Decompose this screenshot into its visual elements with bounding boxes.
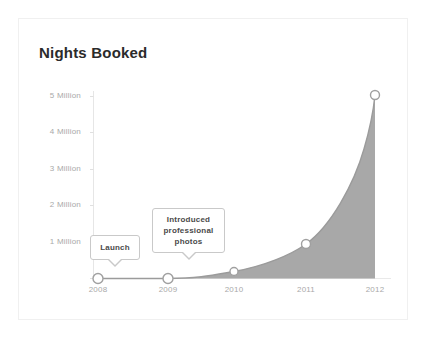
x-tick-label-2008: 2008 [73,285,123,294]
x-tick-label-2012: 2012 [350,285,400,294]
annotation-launch[interactable]: Launch [90,235,140,260]
y-tick-label-3m: 3 Million [27,164,81,173]
y-tick-label-2m: 2 Million [27,200,81,209]
data-point-2009 [163,274,173,284]
annotation-photos-line1: Introduced [167,214,210,225]
data-point-2010 [230,268,238,276]
annotation-launch-label: Launch [100,242,130,253]
data-point-2012 [371,91,380,100]
annotation-professional-photos[interactable]: Introduced professional photos [152,208,225,253]
x-tick-label-2010: 2010 [209,285,259,294]
y-tick-label-5m: 5 Million [27,91,81,100]
y-tick-label-4m: 4 Million [27,127,81,136]
x-tick-label-2009: 2009 [143,285,193,294]
annotation-photos-line3: photos [175,236,203,247]
callout-tail-inner-icon [108,258,122,265]
callout-tail-inner-icon [182,251,196,258]
y-tick-label-1m: 1 Million [27,237,81,246]
data-point-2008 [93,274,103,284]
chart-card: Nights Booked 5 Million 4 Mil [18,18,408,320]
annotation-photos-line2: professional [164,225,214,236]
x-tick-label-2011: 2011 [281,285,331,294]
data-point-2011 [302,240,311,249]
